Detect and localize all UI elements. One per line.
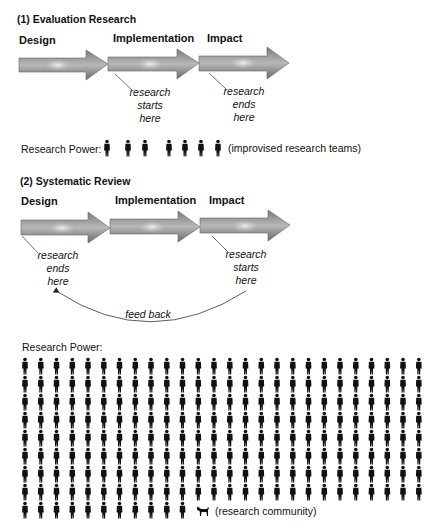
person-icon [290, 466, 296, 483]
person-icon [148, 448, 154, 465]
person-icon [117, 448, 123, 465]
person-icon [164, 484, 170, 501]
person-icon [85, 502, 91, 519]
person-icon [258, 430, 264, 447]
person-icon [369, 448, 375, 465]
person-icon [258, 394, 264, 411]
person-icon [227, 376, 233, 393]
person-icon [22, 448, 28, 465]
person-icon [290, 484, 296, 501]
person-icon [195, 394, 201, 411]
person-icon [353, 466, 359, 483]
person-icon [416, 376, 422, 393]
person-icon [148, 412, 154, 429]
person-icon [274, 376, 280, 393]
person-icon [258, 412, 264, 429]
person-icon [416, 430, 422, 447]
person-icon [306, 412, 312, 429]
person-icon [306, 376, 312, 393]
person-icon [274, 430, 280, 447]
person-icon [54, 394, 60, 411]
person-icon [148, 430, 154, 447]
person-icon [353, 448, 359, 465]
person-icon [416, 394, 422, 411]
person-icon [306, 448, 312, 465]
person-icon [164, 430, 170, 447]
person-icon [101, 466, 107, 483]
person-icon [180, 502, 186, 519]
person-icon [243, 430, 249, 447]
person-icon [38, 448, 44, 465]
person-icon [38, 484, 44, 501]
person-icon [132, 394, 138, 411]
person-icon [195, 484, 201, 501]
person-icon [54, 466, 60, 483]
person-icon [195, 430, 201, 447]
person-icon [400, 466, 406, 483]
person-icon [132, 448, 138, 465]
person-icon [101, 484, 107, 501]
person-icon [180, 394, 186, 411]
person-icon [384, 412, 390, 429]
person-icon [384, 448, 390, 465]
section2-note-start: research starts here [211, 248, 281, 287]
note-line: starts [115, 99, 185, 112]
person-icon [227, 358, 233, 375]
person-icon [164, 502, 170, 519]
person-icon [54, 412, 60, 429]
person-icon [195, 358, 201, 375]
person-icon [164, 412, 170, 429]
person-icon [369, 394, 375, 411]
person-icon [321, 466, 327, 483]
person-icon [180, 412, 186, 429]
person-icon [416, 412, 422, 429]
section2-arrow-implementation [110, 211, 200, 242]
note-line: here [115, 112, 185, 125]
section1-note-end: research ends here [209, 85, 279, 124]
person-icon [369, 466, 375, 483]
person-icon [211, 484, 217, 501]
person-icon [227, 394, 233, 411]
person-icon [337, 412, 343, 429]
person-icon [69, 376, 75, 393]
feedback-label: feed back [113, 308, 183, 321]
person-icon [274, 412, 280, 429]
person-icon [227, 412, 233, 429]
note-line: research [209, 85, 279, 98]
person-icon [337, 448, 343, 465]
person-icon [195, 466, 201, 483]
person-icon [258, 358, 264, 375]
person-icon [337, 376, 343, 393]
person-icon [38, 466, 44, 483]
person-icon [258, 376, 264, 393]
person-icon [369, 376, 375, 393]
person-icon [69, 358, 75, 375]
person-icon [321, 412, 327, 429]
person-icon [22, 466, 28, 483]
person-icon [211, 394, 217, 411]
person-icon [211, 412, 217, 429]
person-icon [69, 430, 75, 447]
person-icon [54, 484, 60, 501]
person-icon [117, 502, 123, 519]
person-icon [369, 358, 375, 375]
note-line: here [209, 111, 279, 124]
person-icon [148, 394, 154, 411]
person-icon [54, 430, 60, 447]
person-icon [353, 358, 359, 375]
person-icon [101, 502, 107, 519]
person-icon [22, 358, 28, 375]
person-icon [117, 484, 123, 501]
person-icon [85, 376, 91, 393]
person-icon [69, 484, 75, 501]
person-icon [54, 376, 60, 393]
person-icon [164, 448, 170, 465]
section1-arrow-implementation [108, 49, 199, 79]
person-icon [211, 376, 217, 393]
person-icon [132, 430, 138, 447]
person-icon [164, 376, 170, 393]
section1-note-start: research starts here [115, 86, 185, 125]
person-icon [180, 448, 186, 465]
person-icon [353, 412, 359, 429]
person-icon [306, 430, 312, 447]
